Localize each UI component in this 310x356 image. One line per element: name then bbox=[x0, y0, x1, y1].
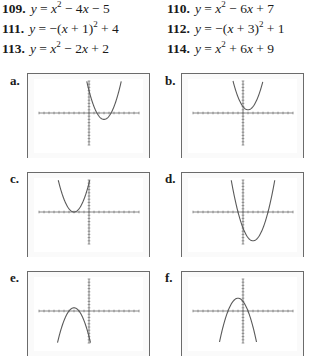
parabola-graph bbox=[28, 74, 149, 158]
exercise-number: 111. bbox=[2, 21, 24, 36]
equation: y = x2 − 4x − 5 bbox=[31, 1, 110, 16]
exercise-111: 111.y = −(x + 1)2 + 4 bbox=[2, 21, 119, 37]
plot-label-f: f. bbox=[165, 270, 173, 286]
parabola-curve bbox=[220, 298, 257, 342]
plot-label-e: e. bbox=[10, 270, 19, 286]
graph-window-d bbox=[181, 172, 304, 257]
exercise-number: 114. bbox=[167, 41, 190, 56]
parabola-curve bbox=[58, 180, 90, 212]
plot-label-a: a. bbox=[10, 73, 20, 89]
exercise-114: 114.y = x2 + 6x + 9 bbox=[167, 41, 274, 57]
graph-window-a bbox=[27, 73, 150, 158]
parabola-graph bbox=[182, 272, 303, 356]
graph-window-f bbox=[181, 271, 304, 356]
equation: y = x2 − 2x + 2 bbox=[30, 41, 109, 56]
parabola-graph bbox=[182, 173, 303, 257]
exercise-109: 109.y = x2 − 4x − 5 bbox=[2, 1, 110, 17]
exercise-113: 113.y = x2 − 2x + 2 bbox=[2, 41, 109, 57]
parabola-curve bbox=[58, 308, 91, 343]
equation: y = x2 + 6x + 9 bbox=[195, 41, 274, 56]
plot-label-c: c. bbox=[10, 171, 19, 187]
graph-window-c bbox=[27, 172, 150, 257]
parabola-graph bbox=[28, 173, 149, 257]
exercise-number: 113. bbox=[2, 41, 25, 56]
equation: y = x2 − 6x + 7 bbox=[195, 1, 274, 16]
graph-window-e bbox=[27, 271, 150, 356]
plot-label-b: b. bbox=[165, 73, 175, 89]
equation: y = −(x + 1)2 + 4 bbox=[29, 21, 119, 36]
exercise-110: 110.y = x2 − 6x + 7 bbox=[167, 1, 274, 17]
parabola-graph bbox=[28, 272, 149, 356]
equation: y = −(x + 3)2 + 1 bbox=[195, 21, 285, 36]
graph-window-b bbox=[181, 73, 304, 158]
plot-label-d: d. bbox=[165, 171, 175, 187]
exercise-number: 110. bbox=[167, 1, 190, 16]
exercise-112: 112.y = −(x + 3)2 + 1 bbox=[167, 21, 285, 37]
exercise-number: 112. bbox=[167, 21, 190, 36]
parabola-graph bbox=[182, 74, 303, 158]
parabola-curve bbox=[231, 180, 275, 241]
parabola-curve bbox=[233, 81, 263, 110]
exercise-number: 109. bbox=[2, 1, 26, 16]
